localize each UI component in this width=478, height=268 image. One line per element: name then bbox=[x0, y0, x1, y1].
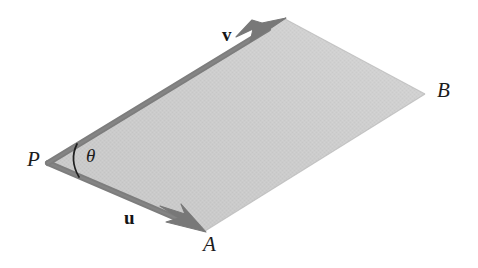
parallelogram-figure bbox=[0, 0, 478, 268]
diagram-canvas: P A B u v θ bbox=[0, 0, 478, 268]
vector-label-v: v bbox=[222, 25, 232, 44]
vertex-label-p: P bbox=[27, 149, 40, 170]
vector-label-u: u bbox=[124, 208, 135, 227]
vertex-label-a: A bbox=[203, 234, 216, 255]
angle-label-theta: θ bbox=[86, 146, 95, 165]
vertex-label-b: B bbox=[437, 80, 450, 101]
